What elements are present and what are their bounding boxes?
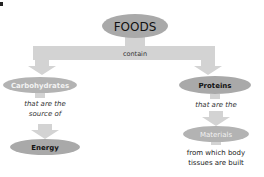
node-energy: Energy [10,139,80,155]
carbs-stem [35,93,45,98]
node-proteins: Proteins [179,76,251,94]
corner-mark [0,2,3,6]
carbs-to-energy-arrow [31,124,59,139]
carbs-connector-line-1: that are the [24,100,66,108]
node-foods-label: FOODS [114,20,157,34]
proteins-to-materials-arrow [202,111,230,126]
node-materials: Materials [183,126,249,142]
materials-caption-line-1: from which body [187,149,245,157]
materials-stem [211,142,221,145]
materials-caption-line-2: tissues are built [188,159,244,167]
proteins-stem [210,94,220,99]
node-carbohydrates: Carbohydrates [3,77,77,93]
connector-contain-label: contain [123,50,147,58]
node-materials-label: Materials [200,131,232,139]
left-arrow-head [28,66,56,75]
left-arrow-shaft [35,60,49,66]
node-proteins-label: Proteins [198,82,231,90]
node-energy-label: Energy [31,144,59,152]
right-arrow-shaft [201,60,215,66]
carbs-connector-line-2: source of [29,110,63,118]
right-arrow-head [194,66,222,75]
node-foods: FOODS [102,14,168,38]
concept-map: FOODS contain Carbohydrates that are the… [0,0,264,177]
proteins-connector-line-1: that are the [195,101,237,109]
node-carbohydrates-label: Carbohydrates [11,82,69,90]
